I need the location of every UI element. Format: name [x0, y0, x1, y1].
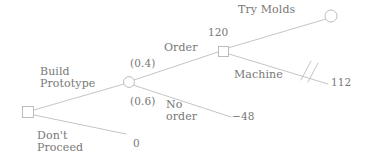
payoff-112: 112: [331, 77, 351, 88]
node-decision-square-120[interactable]: [219, 47, 229, 57]
label-build-prototype-line2: Prototype: [40, 78, 95, 90]
probability-no-order: (0.6): [130, 96, 155, 107]
node-try-molds-terminal-circle[interactable]: [325, 10, 337, 22]
edge-try-molds: [228, 19, 326, 48]
label-no-order-line2: order: [166, 111, 197, 123]
prune-marks-icon: [301, 61, 318, 82]
node-chance-circle[interactable]: [124, 77, 135, 88]
label-try-molds: Try Molds: [238, 4, 295, 16]
label-dont-proceed-line2: Proceed: [37, 142, 83, 154]
node-value-120: 120: [208, 27, 228, 38]
node-root-decision-square[interactable]: [23, 107, 34, 118]
probability-order: (0.4): [130, 58, 155, 69]
payoff-neg-48: −48: [232, 111, 254, 122]
payoff-zero: 0: [133, 138, 140, 149]
label-order: Order: [164, 42, 198, 54]
label-machine: Machine: [234, 69, 283, 81]
